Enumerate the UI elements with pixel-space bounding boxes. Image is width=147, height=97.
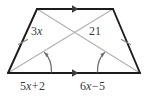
base-angle-arcs-group <box>45 53 105 73</box>
trapezoid-right-leg <box>113 9 140 73</box>
base-right-constant: 5 <box>99 79 105 93</box>
base-right-expression-label: 6x−5 <box>80 80 105 92</box>
base-left-constant: 2 <box>39 79 45 93</box>
diagonal-left-segment-label: 3x <box>31 25 42 37</box>
angle-arc-icon-left <box>45 53 52 73</box>
trapezoid-outline-group <box>8 9 140 73</box>
base-right-operator: − <box>91 79 99 93</box>
base-left-operator: + <box>31 79 39 93</box>
trapezoid-left-leg <box>8 9 37 73</box>
diagonal-left-variable: x <box>37 24 42 38</box>
parallel-arrow-icon-top <box>72 5 78 13</box>
diagonal-right-segment-label: 21 <box>89 25 101 37</box>
diagonals-group <box>8 9 140 73</box>
parallel-marks-group <box>72 5 78 77</box>
geometry-figure: 3x 21 5x+2 6x−5 <box>0 0 147 97</box>
angle-arc-icon-right <box>97 53 104 73</box>
leg-tick-marks-group <box>19 40 131 45</box>
base-left-expression-label: 5x+2 <box>20 80 45 92</box>
parallel-arrow-icon-bottom <box>72 69 78 77</box>
